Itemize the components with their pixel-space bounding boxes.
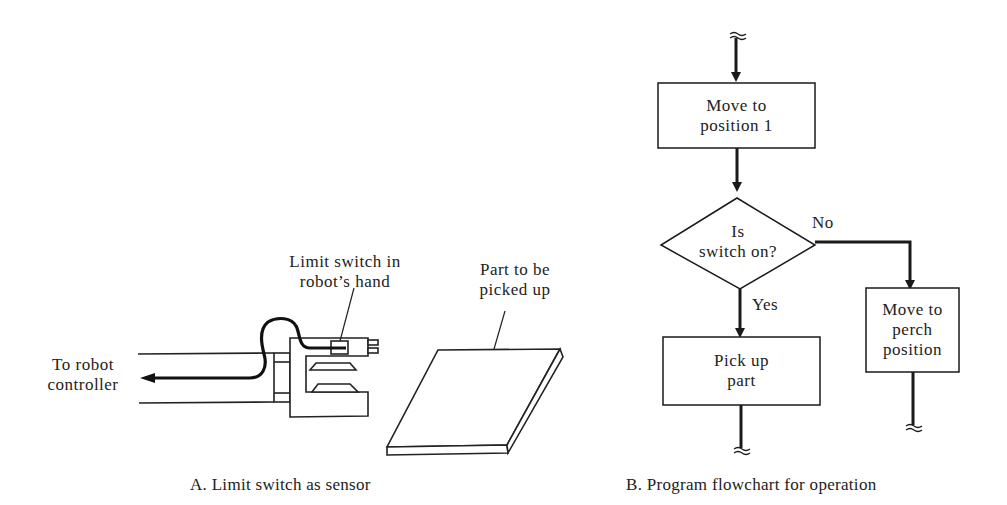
caption-b: B. Program flowchart for operation: [626, 475, 877, 495]
controller-label-line1: To robot: [28, 355, 138, 375]
node-move-position-1: Move to position 1: [658, 96, 815, 136]
node-pick-up-part: Pick up part: [663, 351, 820, 391]
node-decision-line1: Is: [661, 222, 815, 242]
node-pick-up-part-line1: Pick up: [663, 351, 820, 371]
part-label-line2: picked up: [455, 280, 575, 300]
node-move-perch-line2: perch: [866, 320, 959, 340]
limit-switch-label-line1: Limit switch in: [250, 252, 440, 272]
part-plate: [387, 349, 563, 455]
limit-switch-leader: [340, 288, 354, 341]
controller-arrow-icon: [140, 373, 155, 383]
part-label: Part to be picked up: [455, 260, 575, 300]
node-move-perch-line3: position: [866, 340, 959, 360]
controller-label: To robot controller: [28, 355, 138, 395]
diagram-canvas: [0, 0, 1007, 505]
edge-yes-label: Yes: [752, 295, 778, 315]
limit-switch-label-line2: robot’s hand: [250, 272, 440, 292]
caption-a: A. Limit switch as sensor: [190, 475, 371, 495]
part-leader: [494, 311, 505, 349]
node-decision-line2: switch on?: [661, 242, 815, 262]
gripper: [290, 338, 378, 417]
node-move-perch: Move to perch position: [866, 300, 959, 360]
node-move-perch-line1: Move to: [866, 300, 959, 320]
node-move-position-1-line1: Move to: [658, 96, 815, 116]
node-pick-up-part-line2: part: [663, 371, 820, 391]
controller-label-line2: controller: [28, 375, 138, 395]
part-label-line1: Part to be: [455, 260, 575, 280]
limit-switch-label: Limit switch in robot’s hand: [250, 252, 440, 292]
node-decision-switch-on: Is switch on?: [661, 222, 815, 262]
node-move-position-1-line2: position 1: [658, 116, 815, 136]
flow-break-icon: [730, 33, 746, 40]
edge-no-label: No: [812, 213, 834, 233]
